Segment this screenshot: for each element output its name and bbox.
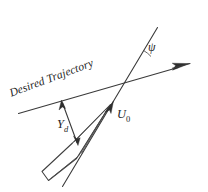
u0-base: U bbox=[117, 107, 126, 121]
cross-track-error-label: Yd bbox=[57, 118, 68, 133]
figure-canvas: Desired Trajectory ψ U0 Yd bbox=[0, 0, 208, 192]
yd-base: Y bbox=[57, 117, 64, 131]
desired-trajectory-line bbox=[19, 63, 191, 113]
u0-arrowhead bbox=[105, 101, 114, 114]
ship-hull bbox=[42, 105, 111, 181]
heading-angle-label: ψ bbox=[148, 41, 155, 53]
yd-subscript: d bbox=[64, 124, 68, 134]
u0-subscript: 0 bbox=[126, 114, 130, 124]
ship-hull-outline bbox=[42, 105, 111, 181]
surge-velocity-label: U0 bbox=[117, 108, 130, 123]
surge-velocity-arrow bbox=[105, 101, 114, 114]
diagram-svg bbox=[0, 0, 208, 192]
